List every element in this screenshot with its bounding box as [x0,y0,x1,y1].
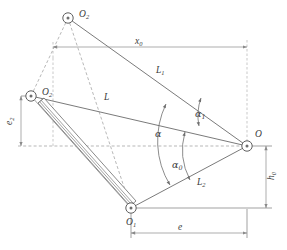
arc-alpha [158,104,170,185]
hydraulic-cylinder [38,98,136,206]
dim-label-h0: h0 [266,171,277,180]
dim-label-e2: e2 [4,117,15,125]
link-label-L: L [103,92,109,102]
angle-label-alpha1: α1 [195,108,206,121]
joint-o2-top [63,13,73,23]
node-label-o: O [255,129,262,139]
joint-o1 [126,203,136,213]
diagram-canvas: O2 O2 O1 O L1 L L2 α1 α α0 x0 e2 h0 e [0,0,287,250]
angle-label-alpha0: α0 [172,159,183,172]
dim-label-x0: x0 [134,36,143,47]
node-label-o2-top: O2 [79,9,90,20]
dimension-lines [21,47,272,238]
link-L1 [68,18,247,146]
angle-label-alpha: α [155,128,162,139]
link-L2 [131,146,247,208]
dashed-o2top-to-o1 [68,18,131,208]
kinematic-diagram: O2 O2 O1 O L1 L L2 α1 α α0 x0 e2 h0 e [0,0,287,250]
cylinder-rod-line-1 [41,100,133,203]
node-label-o1: O1 [126,217,136,228]
node-label-o2-left: O2 [42,87,53,98]
arc-alpha0 [183,132,190,180]
joint-o2-left [26,91,36,101]
link-o2left-to-o1 [31,96,131,208]
link-label-L2: L2 [196,177,206,188]
link-label-L1: L1 [155,65,165,76]
dashed-o2top-to-o2left [31,18,68,96]
dim-label-e: e [178,222,182,232]
joint-o [242,141,252,151]
cylinder-rod-line-2 [40,102,132,205]
